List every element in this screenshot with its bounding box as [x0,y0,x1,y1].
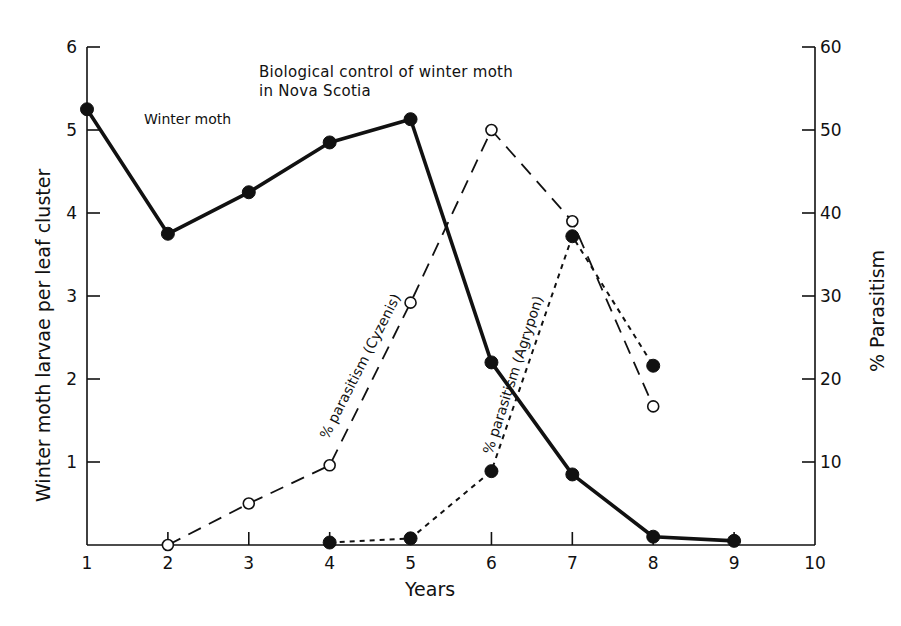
y2-tick-label: 50 [820,120,842,140]
y-tick-label: 2 [66,369,77,389]
x-tick-label: 2 [162,553,173,573]
series-label-cyzenis: % parasitism (Cyzenis) [316,291,403,441]
x-tick-label: 9 [729,553,740,573]
x-tick-label: 1 [82,553,93,573]
data-point [323,536,336,549]
y2-tick-label: 10 [820,452,842,472]
series-label-agrypon: % parasitism (Agrypon) [480,294,546,456]
x-tick-label: 8 [648,553,659,573]
data-point [243,498,254,509]
x-tick-label: 10 [804,553,826,573]
y-axis-title: Winter moth larvae per leaf cluster [32,169,54,502]
series-line-2 [330,236,654,542]
data-point [647,530,660,543]
labels-layer: Biological control of winter moth in Nov… [32,63,888,600]
data-point [566,230,579,243]
chart: 12345610203040506012345678910 Biological… [0,0,901,626]
x-tick-label: 4 [324,553,335,573]
data-point [404,113,417,126]
data-point [324,460,335,471]
series-layer [81,103,741,551]
series-label-winter-moth: Winter moth [144,111,231,127]
data-point [81,103,94,116]
data-point [567,216,578,227]
x-axis-title: Years [404,578,455,600]
data-point [485,465,498,478]
data-point [404,532,417,545]
y2-axis-title: % Parasitism [866,250,888,372]
y2-tick-label: 60 [820,37,842,57]
y-tick-label: 6 [66,37,77,57]
series-line-0 [87,109,734,541]
data-point [161,227,174,240]
y2-tick-label: 40 [820,203,842,223]
y2-tick-label: 20 [820,369,842,389]
x-tick-label: 3 [243,553,254,573]
x-tick-label: 6 [486,553,497,573]
data-point [648,401,659,412]
data-point [485,356,498,369]
y-tick-label: 4 [66,203,77,223]
x-tick-label: 7 [567,553,578,573]
data-point [566,468,579,481]
x-tick-label: 5 [405,553,416,573]
data-point [647,359,660,372]
data-point [242,186,255,199]
data-point [728,534,741,547]
data-point [162,540,173,551]
data-point [486,125,497,136]
data-point [405,297,416,308]
y-tick-label: 1 [66,452,77,472]
y2-tick-label: 30 [820,286,842,306]
y-tick-label: 5 [66,120,77,140]
data-point [323,136,336,149]
chart-title-line-1: Biological control of winter moth [259,63,513,81]
chart-title-line-2: in Nova Scotia [259,82,371,100]
y-tick-label: 3 [66,286,77,306]
